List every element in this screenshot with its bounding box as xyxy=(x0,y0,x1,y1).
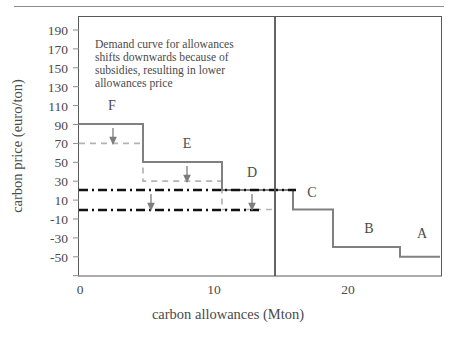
x-tick-10: 10 xyxy=(207,282,221,297)
y-tick-30: 30 xyxy=(55,174,69,189)
y-tick-170: 170 xyxy=(48,42,69,57)
y-axis-title: carbon price (euro/ton) xyxy=(9,79,26,213)
step-label-C: C xyxy=(307,185,316,200)
step-label-B: B xyxy=(364,221,373,236)
y-tick-150: 150 xyxy=(48,61,69,76)
x-tick-20: 20 xyxy=(341,282,355,297)
y-tick-10: 10 xyxy=(55,193,69,208)
x-tick-0: 0 xyxy=(77,282,84,297)
y-tick-50: 50 xyxy=(55,155,69,170)
y-tick-neg10: -10 xyxy=(50,212,68,227)
note-line-3: subsidies, resulting in lower xyxy=(95,64,225,77)
y-tick-110: 110 xyxy=(48,99,68,114)
step-label-E: E xyxy=(183,136,192,151)
y-tick-neg30: -30 xyxy=(50,231,68,246)
y-tick-90: 90 xyxy=(55,118,69,133)
x-axis-tick-labels: 0 10 20 xyxy=(77,282,355,297)
note-line-1: Demand curve for allowances xyxy=(95,38,234,51)
y-axis-tick-labels: 190 170 150 130 110 90 70 50 30 10 -10 -… xyxy=(48,23,69,265)
y-tick-130: 130 xyxy=(48,80,69,95)
step-label-D: D xyxy=(247,165,257,180)
note-line-4: allowances price xyxy=(95,77,173,90)
y-tick-190: 190 xyxy=(48,23,69,38)
y-tick-neg50: -50 xyxy=(50,250,68,265)
y-tick-70: 70 xyxy=(55,136,69,151)
step-label-F: F xyxy=(108,98,116,113)
step-label-A: A xyxy=(417,226,428,241)
figure-container: 190 170 150 130 110 90 70 50 30 10 -10 -… xyxy=(0,0,457,340)
chart-canvas: 190 170 150 130 110 90 70 50 30 10 -10 -… xyxy=(0,0,457,340)
note-line-2: shifts downwards because of xyxy=(95,51,229,64)
x-axis-title: carbon allowances (Mton) xyxy=(152,306,304,323)
